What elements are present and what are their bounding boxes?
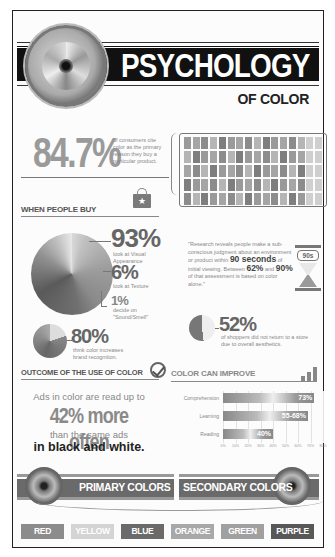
person-icon: [245, 165, 252, 177]
person-icon: [201, 179, 208, 191]
person-icon: [201, 165, 208, 177]
band-gap: [174, 473, 179, 501]
stat-80-value: 80%: [71, 325, 108, 348]
leader-line: [89, 241, 111, 242]
leader-line: [101, 291, 102, 306]
divider: [21, 379, 159, 380]
axis-tick: 10%: [232, 444, 239, 448]
person-icon: [193, 193, 200, 205]
person-icon: [254, 165, 261, 177]
person-icon: [315, 137, 322, 149]
divider: [171, 381, 317, 382]
person-icon: [219, 137, 226, 149]
quote-text: of that assessment is based on color alo…: [188, 273, 277, 287]
quote-highlight-62: 62%: [246, 263, 263, 273]
person-icon: [263, 151, 270, 163]
person-icon: [193, 179, 200, 191]
person-icon: [298, 165, 305, 177]
person-icon: [236, 165, 243, 177]
color-chip-red: RED: [21, 524, 64, 539]
research-quote: "Research reveals people make a sub-cons…: [188, 241, 293, 288]
person-icon: [193, 151, 200, 163]
bar-category-label: Learning: [175, 413, 219, 419]
person-icon: [184, 137, 191, 149]
page-title: PSYCHOLOGY: [121, 47, 310, 83]
pie-chart-shoppers: [189, 315, 215, 341]
stat-52-value: 52%: [219, 313, 256, 336]
person-icon: [228, 165, 235, 177]
person-icon: [289, 179, 296, 191]
person-icon: [298, 193, 305, 205]
person-icon: [201, 193, 208, 205]
leader-line: [103, 271, 111, 272]
person-icon: [236, 137, 243, 149]
camera-lens-icon: [25, 467, 63, 505]
color-chip-purple: PURPLE: [271, 524, 314, 539]
stat-84-7-value: 84.7%: [33, 131, 120, 175]
person-icon: [315, 193, 322, 205]
person-icon: [210, 165, 217, 177]
bar-value-label: 55-68%: [282, 411, 306, 421]
stat-1-description: decide on "Sound/Smell": [113, 307, 157, 321]
bar: 40%: [223, 429, 273, 439]
person-icon: [219, 165, 226, 177]
secondary-colors-label: SECONDARY COLORS: [183, 478, 293, 496]
person-icon: [271, 193, 278, 205]
person-icon: [245, 193, 252, 205]
camera-lens-icon: [25, 25, 107, 107]
axis-tick: 50%: [282, 444, 289, 448]
person-icon: [219, 193, 226, 205]
leader-line: [101, 306, 107, 307]
quote-text: and: [265, 266, 274, 272]
person-icon: [245, 151, 252, 163]
person-icon: [263, 137, 270, 149]
person-icon: [228, 151, 235, 163]
axis-tick: 20%: [244, 444, 251, 448]
color-chip-blue: BLUE: [121, 524, 164, 539]
person-icon: [280, 179, 287, 191]
color-chip-yellow: YELLOW: [71, 524, 114, 539]
outcome-line-3: than the same ads: [19, 429, 159, 440]
shopping-bag-icon: ★: [133, 194, 151, 208]
bar: 55-68%: [223, 411, 308, 421]
stat-6-description: look at Texture: [113, 283, 153, 290]
person-icon: [254, 137, 261, 149]
brace-divider: [33, 501, 323, 511]
hourglass-icon: 90s: [295, 245, 321, 291]
quote-highlight-90: 90%: [276, 263, 293, 273]
person-icon: [236, 179, 243, 191]
person-icon: [280, 151, 287, 163]
person-icon: [306, 179, 313, 191]
person-icon: [280, 137, 287, 149]
bar-category-label: Comprehension: [175, 395, 219, 401]
person-icon: [219, 151, 226, 163]
color-chip-green: GREEN: [221, 524, 264, 539]
divider: [21, 216, 159, 217]
section-heading-when-people-buy: WHEN PEOPLE BUY: [21, 205, 96, 214]
stat-6-value: 6%: [111, 261, 138, 284]
bar: 73%: [223, 393, 314, 403]
axis-tick: 70%: [307, 444, 314, 448]
person-icon: [210, 179, 217, 191]
person-icon: [298, 151, 305, 163]
stat-93-value: 93%: [111, 223, 160, 254]
person-icon: [306, 193, 313, 205]
stat-84-7-description: of consumers cite color as the primary r…: [113, 137, 169, 165]
person-icon: [184, 193, 191, 205]
person-icon: [263, 179, 270, 191]
person-icon: [228, 137, 235, 149]
person-icon: [315, 151, 322, 163]
person-icon: [306, 151, 313, 163]
person-icon: [245, 137, 252, 149]
primary-colors-label: PRIMARY COLORS: [79, 478, 170, 496]
bar-value-label: 40%: [257, 429, 271, 439]
person-icon: [306, 165, 313, 177]
person-icon: [210, 137, 217, 149]
person-icon: [184, 165, 191, 177]
section-heading-color-can-improve: COLOR CAN IMPROVE: [171, 369, 255, 378]
pie-chart-brand-recognition: [33, 324, 67, 358]
person-icon: [289, 137, 296, 149]
person-icon: [298, 137, 305, 149]
axis-tick: 80%: [319, 444, 326, 448]
infographic-frame: PSYCHOLOGY OF COLOR 84.7% of consumers c…: [12, 10, 324, 548]
